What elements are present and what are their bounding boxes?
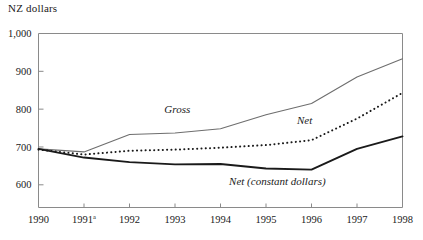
x-tick-label: 1994 [210, 214, 232, 225]
series-annotations: GrossNetNet (constant dollars) [164, 103, 326, 188]
x-tick-label: 1996 [301, 214, 322, 225]
x-tick-label: 1990 [28, 214, 49, 225]
x-tick-label: 1993 [165, 214, 186, 225]
series-label: Net (constant dollars) [228, 175, 326, 188]
data-series-line [39, 59, 403, 152]
x-axis-ticks: 19901991a1992199319941995199619971998 [28, 204, 413, 225]
y-tick-label: 800 [16, 104, 32, 115]
y-tick-label: 900 [16, 66, 32, 77]
data-series-group [39, 59, 403, 170]
plot-frame [39, 34, 403, 208]
series-label: Gross [164, 103, 190, 115]
line-chart: 6007008009001,000 19901991a1992199319941… [0, 0, 423, 240]
x-tick-label: 1997 [347, 214, 368, 225]
x-tick-label: 1998 [392, 214, 413, 225]
x-tick-label: 1992 [119, 214, 140, 225]
chart-frame [39, 34, 403, 208]
x-tick-label: 1991a [72, 213, 96, 225]
data-series-line [39, 93, 403, 155]
data-series-line [39, 136, 403, 169]
x-tick-label: 1995 [256, 214, 277, 225]
y-tick-label: 1,000 [8, 28, 32, 39]
chart-container: NZ dollars 6007008009001,000 19901991a19… [0, 0, 423, 240]
y-tick-label: 600 [16, 179, 32, 190]
y-tick-label: 700 [16, 142, 32, 153]
series-label: Net [296, 114, 313, 126]
